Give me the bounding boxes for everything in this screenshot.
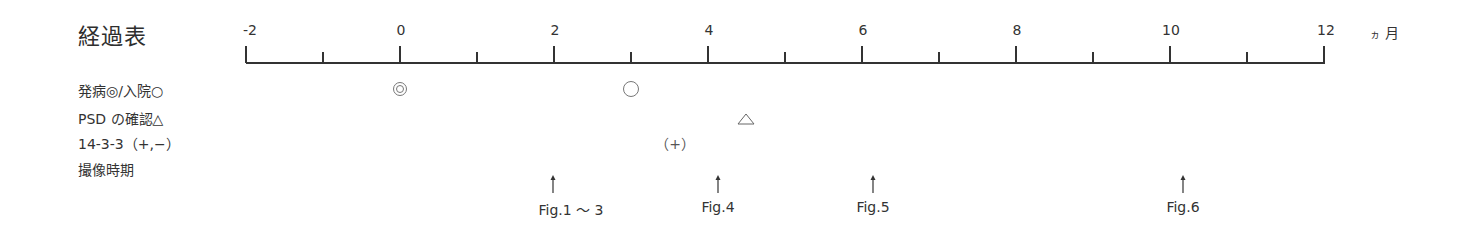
tick-label: 6	[859, 22, 868, 38]
tick-label: 8	[1013, 22, 1022, 38]
arrow-up-icon	[1178, 174, 1188, 194]
imaging-label-fig1-3: Fig.1 〜 3	[539, 199, 604, 219]
row-label-14-3-3: 14-3-3（+,−）	[78, 133, 180, 153]
tick-major	[399, 46, 401, 63]
arrow-up-icon	[548, 174, 558, 194]
row-label-imaging: 撮像時期	[78, 159, 134, 179]
tick-minor	[938, 52, 940, 63]
tick-label: 12	[1317, 22, 1335, 38]
unit-month: 月	[1385, 25, 1399, 41]
tick-major	[1169, 46, 1171, 63]
tick-minor	[476, 52, 478, 63]
protein-14-3-3-result: （+）	[655, 133, 695, 153]
chart-title: 経過表	[78, 18, 147, 50]
tick-major	[245, 46, 247, 63]
tick-minor	[784, 52, 786, 63]
imaging-label-fig6: Fig.6	[1166, 199, 1199, 215]
axis-unit: ヵ月	[1370, 22, 1399, 42]
tick-minor	[1246, 52, 1248, 63]
onset-double-circle-icon	[393, 82, 407, 96]
tick-label: 0	[397, 22, 406, 38]
imaging-label-fig4: Fig.4	[701, 199, 734, 215]
tick-label: -2	[243, 22, 257, 38]
tick-major	[1015, 46, 1017, 63]
tick-label: 4	[705, 22, 714, 38]
tick-minor	[630, 52, 632, 63]
admission-circle-icon	[623, 81, 639, 97]
arrow-up-icon	[713, 174, 723, 194]
row-label-onset-admission: 発病◎/入院○	[78, 80, 163, 100]
tick-major	[1323, 46, 1325, 63]
arrow-up-icon	[868, 174, 878, 194]
tick-label: 2	[551, 22, 560, 38]
row-label-psd: PSD の確認△	[78, 108, 163, 128]
tick-label: 10	[1162, 22, 1180, 38]
tick-major	[553, 46, 555, 63]
imaging-label-fig5: Fig.5	[856, 199, 889, 215]
tick-minor	[322, 52, 324, 63]
unit-ka: ヵ	[1370, 29, 1380, 40]
psd-triangle-icon	[737, 113, 755, 125]
tick-major	[861, 46, 863, 63]
tick-minor	[1092, 52, 1094, 63]
tick-major	[707, 46, 709, 63]
